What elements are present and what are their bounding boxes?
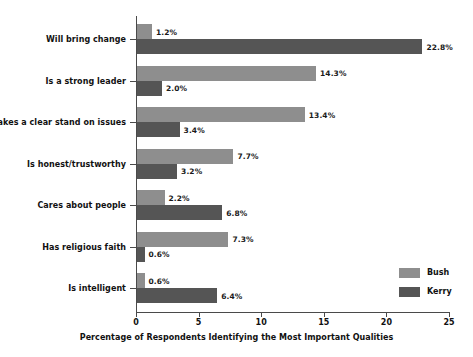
category-tick	[130, 122, 137, 123]
legend-swatch-bush	[399, 268, 420, 278]
category-tick	[130, 39, 137, 40]
x-axis-title: Percentage of Respondents Identifying th…	[0, 333, 473, 342]
bar-value-label: 7.7%	[237, 152, 258, 161]
category-label: Cares about people	[37, 201, 126, 210]
category-label: Has religious faith	[42, 242, 126, 251]
category-group: 7.7%3.2%Is honest/trustworthy	[137, 149, 450, 179]
category-label: Is intelligent	[68, 284, 126, 293]
bar-bush	[137, 107, 305, 122]
category-label: Will bring change	[46, 35, 126, 44]
category-group: 13.4%3.4%Takes a clear stand on issues	[137, 107, 450, 137]
bar-value-label: 3.2%	[181, 167, 202, 176]
bar-kerry	[137, 122, 180, 137]
x-tick-label: 25	[443, 318, 454, 327]
category-label: Is a strong leader	[45, 76, 126, 85]
category-tick	[130, 81, 137, 82]
bar-value-label: 7.3%	[232, 235, 253, 244]
x-tick-label: 10	[256, 318, 267, 327]
bar-bush	[137, 66, 316, 81]
legend-item: Bush	[399, 265, 452, 280]
category-tick	[130, 288, 137, 289]
category-tick	[130, 205, 137, 206]
bar-row: 7.3%	[137, 232, 450, 247]
x-tick-label: 5	[196, 318, 202, 327]
x-axis-line	[136, 312, 450, 313]
category-tick	[130, 247, 137, 248]
bar-kerry	[137, 247, 145, 262]
bar-row: 14.3%	[137, 66, 450, 81]
bar-kerry	[137, 205, 222, 220]
bar-kerry	[137, 81, 162, 96]
x-tick-label: 15	[318, 318, 329, 327]
bar-value-label: 1.2%	[156, 27, 177, 36]
x-tick	[261, 312, 262, 317]
x-tick	[136, 312, 137, 317]
bar-bush	[137, 273, 145, 288]
x-tick-label: 0	[133, 318, 139, 327]
category-label: Takes a clear stand on issues	[0, 118, 126, 127]
bar-value-label: 6.4%	[221, 291, 242, 300]
legend-swatch-kerry	[399, 287, 420, 297]
bar-value-label: 14.3%	[320, 69, 347, 78]
x-tick	[449, 312, 450, 317]
bar-value-label: 2.2%	[169, 193, 190, 202]
legend-label: Kerry	[427, 287, 452, 296]
legend-item: Kerry	[399, 284, 452, 299]
category-tick	[130, 164, 137, 165]
bar-row: 0.6%	[137, 247, 450, 262]
category-group: 2.2%6.8%Cares about people	[137, 190, 450, 220]
x-tick	[199, 312, 200, 317]
bar-row: 13.4%	[137, 107, 450, 122]
bar-row: 22.8%	[137, 39, 450, 54]
bar-value-label: 3.4%	[184, 125, 205, 134]
bar-bush	[137, 149, 233, 164]
bar-kerry	[137, 164, 177, 179]
x-tick	[324, 312, 325, 317]
bar-bush	[137, 24, 152, 39]
bar-bush	[137, 232, 228, 247]
bar-row: 6.8%	[137, 205, 450, 220]
chart-legend: BushKerry	[399, 265, 452, 303]
bar-row: 2.2%	[137, 190, 450, 205]
bar-value-label: 0.6%	[149, 250, 170, 259]
category-label: Is honest/trustworthy	[27, 159, 126, 168]
bar-kerry	[137, 288, 217, 303]
bar-value-label: 13.4%	[309, 110, 336, 119]
category-group: 7.3%0.6%Has religious faith	[137, 232, 450, 262]
bar-value-label: 0.6%	[149, 276, 170, 285]
bar-bush	[137, 190, 165, 205]
bar-row: 7.7%	[137, 149, 450, 164]
bar-value-label: 22.8%	[426, 42, 453, 51]
category-group: 1.2%22.8%Will bring change	[137, 24, 450, 54]
bar-row: 3.2%	[137, 164, 450, 179]
bar-row: 3.4%	[137, 122, 450, 137]
bar-value-label: 2.0%	[166, 84, 187, 93]
legend-label: Bush	[427, 268, 449, 277]
bar-row: 2.0%	[137, 81, 450, 96]
bar-value-label: 6.8%	[226, 208, 247, 217]
category-group: 14.3%2.0%Is a strong leader	[137, 66, 450, 96]
bar-row: 1.2%	[137, 24, 450, 39]
x-tick-label: 20	[381, 318, 392, 327]
bar-kerry	[137, 39, 422, 54]
bar-chart: 1.2%22.8%Will bring change14.3%2.0%Is a …	[0, 0, 473, 357]
x-tick	[386, 312, 387, 317]
